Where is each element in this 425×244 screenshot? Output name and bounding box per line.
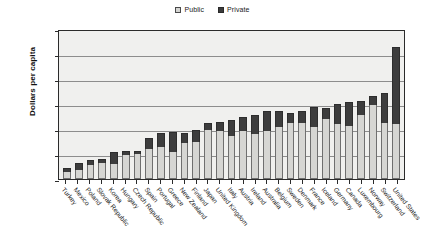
x-label-slot: Korea: [107, 185, 119, 244]
bar-segment-public: [251, 134, 259, 180]
stacked-bar[interactable]: [216, 122, 224, 179]
bar-segment-public: [228, 136, 236, 180]
bar-slot: [155, 31, 167, 179]
bar-segment-public: [181, 143, 189, 179]
x-tick-mark: [160, 180, 161, 184]
bar-slot: [343, 31, 355, 179]
x-tick-mark: [361, 180, 362, 184]
stacked-bar[interactable]: [145, 138, 153, 179]
stacked-bar[interactable]: [345, 102, 353, 179]
x-label-slot: Australia: [261, 185, 273, 244]
x-tick-mark: [337, 180, 338, 184]
bar-segment-private: [110, 152, 118, 165]
bar-series-group: [59, 31, 404, 179]
stacked-bar[interactable]: [369, 96, 377, 180]
stacked-bar[interactable]: [110, 152, 118, 180]
stacked-bar[interactable]: [157, 133, 165, 180]
bar-slot: [132, 31, 144, 179]
x-tick-mark: [266, 180, 267, 184]
stacked-bar[interactable]: [181, 133, 189, 180]
bar-segment-public: [287, 123, 295, 179]
stacked-bar[interactable]: [169, 132, 177, 179]
x-label-slot: New Zealand: [178, 185, 190, 244]
bar-segment-public: [216, 131, 224, 179]
bar-slot: [296, 31, 308, 179]
stacked-bar[interactable]: [63, 168, 71, 180]
bar-segment-public: [369, 105, 377, 180]
bar-slot: [61, 31, 73, 179]
bar-slot: [308, 31, 320, 179]
x-tick-mark: [136, 180, 137, 184]
stacked-bar[interactable]: [392, 47, 400, 179]
bar-segment-public: [275, 127, 283, 179]
stacked-bar[interactable]: [192, 130, 200, 179]
stacked-bar[interactable]: [298, 111, 306, 179]
stacked-bar[interactable]: [287, 113, 295, 180]
bar-segment-public: [192, 142, 200, 179]
stacked-bar[interactable]: [204, 123, 212, 180]
x-tick-mark: [385, 180, 386, 184]
stacked-bar[interactable]: [381, 93, 389, 179]
x-tick-mark: [65, 180, 66, 184]
x-label-slot: Italy: [226, 185, 238, 244]
stacked-bar[interactable]: [87, 160, 95, 179]
stacked-bar[interactable]: [239, 117, 247, 180]
bar-segment-public: [298, 123, 306, 179]
stacked-bar[interactable]: [357, 101, 365, 179]
bar-segment-public: [98, 163, 106, 179]
x-label-slot: Austria: [237, 185, 249, 244]
bar-slot: [73, 31, 85, 179]
bar-segment-private: [310, 107, 318, 127]
stacked-bar[interactable]: [334, 104, 342, 180]
x-label-slot: Sweden: [285, 185, 297, 244]
stacked-bar[interactable]: [263, 111, 271, 179]
bar-slot: [120, 31, 132, 179]
stacked-bar[interactable]: [251, 115, 259, 180]
bar-segment-public: [334, 124, 342, 180]
bar-segment-public: [381, 123, 389, 179]
bar-segment-public: [145, 149, 153, 179]
bar-segment-public: [263, 131, 271, 179]
bar-slot: [261, 31, 273, 179]
bar-slot: [179, 31, 191, 179]
stacked-bar[interactable]: [322, 108, 330, 179]
bar-slot: [237, 31, 249, 179]
plot-area: 0100020003000400050006000: [58, 30, 405, 180]
bar-segment-private: [145, 138, 153, 150]
bar-slot: [214, 31, 226, 179]
x-label-slot: France: [308, 185, 320, 244]
bar-slot: [355, 31, 367, 179]
x-label-slot: Turkey: [60, 185, 72, 244]
bar-slot: [226, 31, 238, 179]
x-tick-mark: [219, 180, 220, 184]
legend-label-private: Private: [227, 6, 250, 13]
bar-slot: [96, 31, 108, 179]
x-label-slot: Finland: [190, 185, 202, 244]
legend-swatch-private-icon: [218, 7, 224, 13]
bar-segment-private: [369, 96, 377, 105]
legend-label-public: Public: [184, 6, 204, 13]
legend-swatch-public-icon: [175, 7, 181, 13]
stacked-bar[interactable]: [310, 107, 318, 180]
bar-slot: [367, 31, 379, 179]
stacked-bar[interactable]: [75, 163, 83, 179]
bar-segment-private: [169, 132, 177, 152]
x-tick-mark: [89, 180, 90, 184]
x-label-slot: Spain: [143, 185, 155, 244]
x-label-slot: Norway: [368, 185, 380, 244]
stacked-bar[interactable]: [98, 159, 106, 179]
bar-segment-private: [345, 102, 353, 126]
x-label-slot: Japan: [202, 185, 214, 244]
stacked-bar[interactable]: [134, 151, 142, 180]
bar-slot: [143, 31, 155, 179]
bar-segment-private: [334, 104, 342, 124]
stacked-bar[interactable]: [228, 120, 236, 179]
stacked-bar[interactable]: [122, 151, 130, 179]
chart-container: Public Private Dollars per capita 010002…: [0, 0, 425, 244]
stacked-bar[interactable]: [275, 111, 283, 179]
x-label-slot: Denmark: [297, 185, 309, 244]
bar-segment-public: [239, 131, 247, 179]
bar-segment-public: [169, 152, 177, 179]
x-label-slot: Germany: [332, 185, 344, 244]
bar-slot: [167, 31, 179, 179]
